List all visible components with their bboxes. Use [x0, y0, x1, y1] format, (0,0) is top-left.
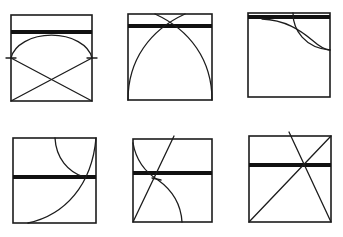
geometric-panels-figure [0, 0, 343, 237]
panel-4 [13, 138, 96, 223]
panel-5 [133, 136, 212, 222]
diagonal-line [249, 136, 331, 222]
diagonal-line [133, 136, 174, 222]
arc-small [55, 138, 84, 177]
panel-3 [248, 13, 330, 97]
panel-2 [128, 14, 212, 100]
panel-frame [133, 139, 212, 222]
arc-large [262, 19, 330, 50]
arc-large [28, 138, 96, 223]
s-curve-arc [133, 143, 182, 222]
slanted-line [289, 132, 331, 222]
panel-1 [6, 15, 97, 101]
panel-6 [249, 132, 331, 222]
semicircle-arc [11, 35, 92, 58]
panel-frame [11, 15, 92, 101]
